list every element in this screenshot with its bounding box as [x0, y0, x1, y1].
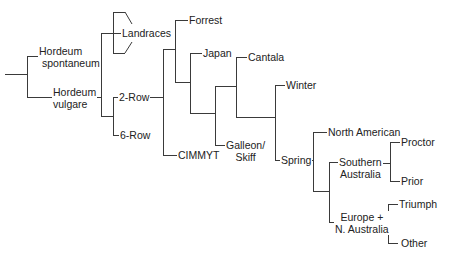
- node-label-line1: Europe +: [335, 211, 389, 223]
- node-hordeum-vulgare: Hordeum vulgare: [52, 86, 97, 110]
- node-6-row: 6-Row: [119, 129, 151, 141]
- node-label-line1: Southern: [339, 156, 382, 168]
- node-galleon-skiff: Galleon/ Skiff: [225, 139, 266, 163]
- node-label-line1: Hordeum: [39, 45, 100, 57]
- node-cimmyt: CIMMYT: [177, 149, 220, 161]
- node-label-line2: spontaneum: [39, 57, 100, 69]
- node-forrest: Forrest: [188, 14, 223, 26]
- node-label-line1: Hordeum: [53, 86, 96, 98]
- node-triumph: Triumph: [398, 198, 438, 210]
- node-japan: Japan: [202, 47, 233, 59]
- node-label-line2: N. Australia: [335, 223, 389, 235]
- node-winter: Winter: [285, 79, 317, 91]
- node-label-line2: Australia: [339, 168, 382, 180]
- node-southern-australia: Southern Australia: [338, 156, 383, 180]
- node-proctor: Proctor: [400, 136, 436, 148]
- node-europe-n-australia: Europe + N. Australia: [334, 211, 390, 235]
- node-north-american: North American: [327, 126, 401, 138]
- node-other: Other: [400, 237, 428, 249]
- node-hordeum-spontaneum: Hordeum spontaneum: [38, 45, 101, 69]
- node-prior: Prior: [400, 175, 424, 187]
- node-label-line2: Skiff: [226, 151, 265, 163]
- node-2-row: 2-Row: [118, 91, 150, 103]
- node-spring: Spring: [280, 154, 312, 166]
- node-cantala: Cantala: [247, 51, 285, 63]
- node-label-line2: vulgare: [53, 98, 96, 110]
- node-landraces: Landraces: [121, 27, 172, 39]
- node-label-line1: Galleon/: [226, 139, 265, 151]
